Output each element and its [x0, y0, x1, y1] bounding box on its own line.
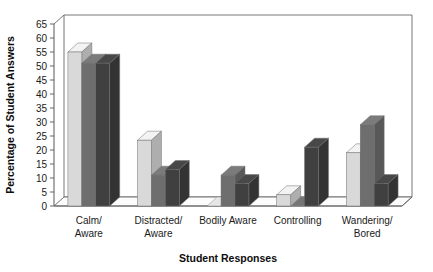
chart-canvas: 05101520253035404550556065Percentage of … — [0, 0, 433, 272]
y-axis-tick-label: 0 — [41, 201, 47, 212]
y-axis-tick-label: 35 — [36, 103, 48, 114]
bar-front-face — [221, 175, 235, 206]
y-axis-tick-label: 40 — [36, 89, 48, 100]
bar-front-face — [360, 125, 374, 206]
y-axis-tick-label: 30 — [36, 117, 48, 128]
x-axis-category-label: Wandering/ — [342, 215, 393, 226]
y-axis-tick-label: 20 — [36, 145, 48, 156]
bar-group — [68, 43, 120, 206]
y-axis-tick-label: 60 — [36, 33, 48, 44]
x-axis-title: Student Responses — [179, 252, 277, 264]
y-axis-tick-label: 5 — [41, 187, 47, 198]
y-axis-tick-label: 50 — [36, 61, 48, 72]
bar-front-face — [68, 52, 82, 206]
x-axis-category-label: Bored — [354, 228, 381, 239]
bar-chart: 05101520253035404550556065Percentage of … — [0, 0, 433, 272]
bar-front-face — [305, 147, 319, 206]
y-axis-tick-label: 15 — [36, 159, 48, 170]
x-axis-category-label: Calm/ — [76, 215, 102, 226]
x-axis-category-label: Aware — [75, 228, 104, 239]
y-axis-tick-label: 55 — [36, 47, 48, 58]
bar-side-face — [110, 54, 120, 206]
y-axis-tick-label: 25 — [36, 131, 48, 142]
y-axis-tick-label: 10 — [36, 173, 48, 184]
bar-front-face — [151, 175, 165, 206]
y-axis-tick-label: 65 — [36, 19, 48, 30]
bar-front-face — [277, 195, 291, 206]
bar-front-face — [138, 140, 152, 206]
bar-front-face — [82, 63, 96, 206]
x-axis-category-label: Distracted/ — [135, 215, 183, 226]
axis-depth-top — [54, 15, 64, 24]
bar-front-face — [235, 184, 249, 206]
bar-front-face — [96, 63, 110, 206]
x-axis-category-label: Bodily Aware — [199, 215, 257, 226]
bar-front-face — [374, 184, 388, 206]
y-axis-title: Percentage of Student Answers — [4, 36, 16, 194]
y-axis-tick-label: 45 — [36, 75, 48, 86]
x-axis-category-label: Controlling — [274, 215, 322, 226]
bar-side-face — [318, 138, 328, 206]
bar-front-face — [165, 170, 179, 206]
x-axis-category-label: Aware — [144, 228, 173, 239]
bar-front-face — [346, 153, 360, 206]
